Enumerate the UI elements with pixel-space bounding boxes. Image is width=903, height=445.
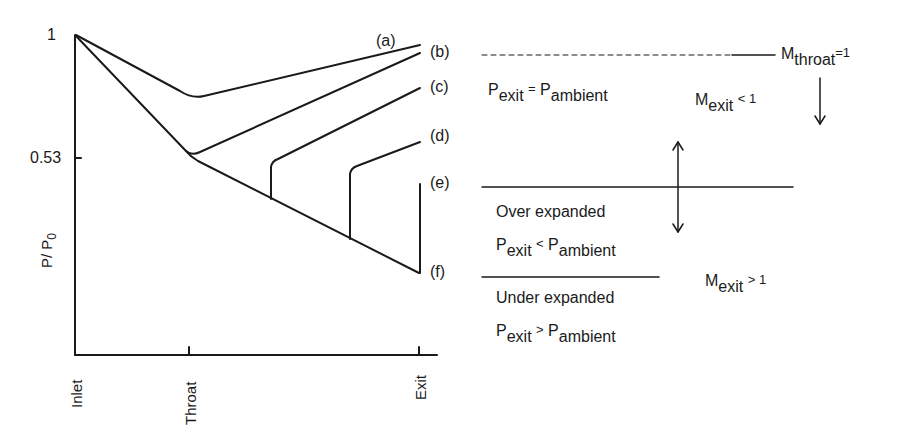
curve-label-b: (b): [430, 44, 450, 60]
mexit-less-than-1: Mexit < 1: [695, 92, 756, 108]
curve-f-supersonic: [186, 151, 419, 273]
curve-label-e: (e): [430, 175, 450, 191]
y-tick-label-1: 1: [47, 27, 56, 43]
x-tick-label-inlet: Inlet: [68, 380, 85, 408]
curve-label-a: (a): [376, 33, 396, 49]
over-expanded-condition: Pexit < Pambient: [496, 237, 616, 253]
y-axis-label: P/ P0: [38, 233, 55, 268]
under-expanded-title: Under expanded: [496, 290, 614, 306]
curve-d: [350, 142, 420, 239]
mexit-greater-than-1: Mexit > 1: [705, 273, 766, 289]
under-expanded-condition: Pexit > Pambient: [496, 323, 616, 339]
x-tick-label-exit: Exit: [412, 375, 429, 400]
curve-label-f: (f): [430, 264, 445, 280]
curve-a: [76, 35, 420, 97]
y-tick-label-053: 0.53: [30, 150, 61, 166]
curve-label-c: (c): [430, 79, 449, 95]
curve-b: [76, 36, 420, 154]
curve-label-d: (d): [430, 128, 450, 144]
x-tick-label-throat: Throat: [182, 382, 199, 425]
pexit-equals-pambient: Pexit = Pambient: [488, 82, 608, 98]
curve-c: [271, 88, 420, 199]
mthroat-label: Mthroat=1: [781, 46, 850, 62]
nozzle-diagram: [0, 0, 903, 445]
over-expanded-title: Over expanded: [496, 204, 605, 220]
